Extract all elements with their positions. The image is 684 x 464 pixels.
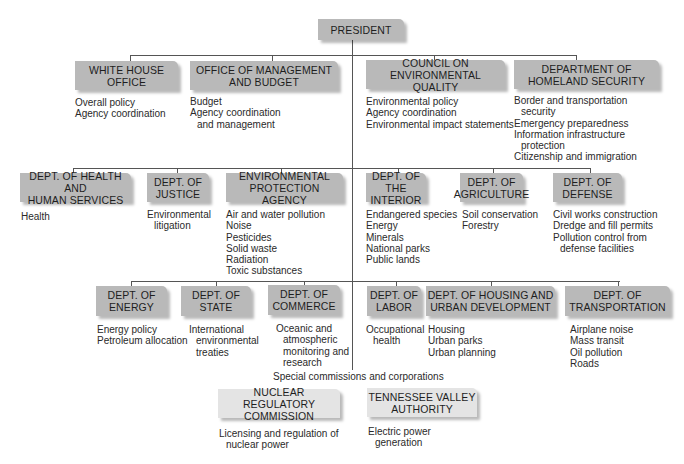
org-box-ceq: COUNCIL ON ENVIRONMENTAL QUALITY bbox=[366, 60, 505, 89]
duty-item: Occupational bbox=[366, 324, 424, 335]
org-label: DEPARTMENT OF HOMELAND SECURITY bbox=[528, 63, 645, 87]
org-box-agriculture: DEPT. OF AGRICULTURE bbox=[460, 173, 523, 202]
duty-item: Radiation bbox=[226, 254, 325, 265]
org-box-transportation: DEPT. OF TRANSPORTATION bbox=[565, 286, 670, 316]
duty-item: Urban parks bbox=[428, 335, 496, 346]
org-label: COUNCIL ON ENVIRONMENTAL QUALITY bbox=[366, 57, 505, 93]
president-box: PRESIDENT bbox=[318, 19, 404, 40]
duty-item: Pollution control from bbox=[553, 232, 657, 243]
org-duties-epa: Air and water pollution Noise Pesticides… bbox=[226, 209, 325, 277]
duty-item: Agency coordination bbox=[366, 107, 514, 118]
org-label: DEPT. OF JUSTICE bbox=[154, 176, 202, 200]
duty-item: atmospheric bbox=[276, 334, 349, 345]
duty-item: Urban planning bbox=[428, 347, 496, 358]
org-box-labor: DEPT. OF LABOR bbox=[367, 286, 421, 316]
org-duties-white-house-office: Overall policy Agency coordination bbox=[75, 97, 166, 120]
duty-item: protection bbox=[514, 140, 637, 151]
duty-item: Air and water pollution bbox=[226, 209, 325, 220]
duty-item: Agency coordination bbox=[190, 107, 281, 118]
org-label: DEPT. OF TRANSPORTATION bbox=[569, 289, 666, 313]
org-label: DEPT. OF HOUSING AND URBAN DEVELOPMENT bbox=[428, 289, 554, 313]
duty-item: nuclear power bbox=[219, 439, 339, 450]
org-duties-labor: Occupational health bbox=[366, 324, 424, 347]
duty-item: International bbox=[189, 324, 259, 335]
org-box-dhs: DEPARTMENT OF HOMELAND SECURITY bbox=[514, 60, 659, 89]
duty-item: Energy policy bbox=[97, 324, 188, 335]
org-label: OFFICE OF MANAGEMENT AND BUDGET bbox=[196, 64, 332, 88]
org-box-justice: DEPT. OF JUSTICE bbox=[147, 173, 209, 202]
org-duties-commerce: Oceanic and atmospheric monitoring and r… bbox=[276, 323, 349, 368]
org-box-nrc: NUCLEAR REGULATORY COMMISSION bbox=[218, 389, 340, 418]
org-duties-defense: Civil works construction Dredge and fill… bbox=[553, 209, 657, 254]
duty-item: Forestry bbox=[462, 220, 538, 231]
duty-item: Airplane noise bbox=[570, 324, 633, 335]
duty-item: Public lands bbox=[366, 254, 457, 265]
org-label: DEPT. OF ENERGY bbox=[107, 289, 155, 313]
duty-item: Emergency preparedness bbox=[514, 118, 637, 129]
duty-item: defense facilities bbox=[553, 243, 657, 254]
org-box-omb: OFFICE OF MANAGEMENT AND BUDGET bbox=[190, 61, 338, 90]
org-label: NUCLEAR REGULATORY COMMISSION bbox=[218, 386, 340, 422]
duty-item: Petroleum allocation bbox=[97, 335, 188, 346]
org-duties-nrc: Licensing and regulation of nuclear powe… bbox=[219, 428, 339, 451]
org-box-commerce: DEPT. OF COMMERCE bbox=[268, 285, 340, 315]
duty-item: National parks bbox=[366, 243, 457, 254]
org-duties-tva: Electric power generation bbox=[368, 426, 431, 449]
org-duties-hhs: Health bbox=[21, 211, 50, 222]
duty-item: Health bbox=[21, 211, 50, 222]
duty-item: and management bbox=[190, 119, 281, 130]
duty-item: Oil pollution bbox=[570, 347, 633, 358]
duty-item: environmental bbox=[189, 335, 259, 346]
duty-item: Solid waste bbox=[226, 243, 325, 254]
duty-item: Toxic substances bbox=[226, 265, 325, 276]
org-label: WHITE HOUSE OFFICE bbox=[89, 64, 164, 88]
duty-item: Pesticides bbox=[226, 232, 325, 243]
duty-item: security bbox=[514, 106, 637, 117]
org-box-interior: DEPT. OF THE INTERIOR bbox=[366, 173, 426, 202]
special-commissions-heading: Special commissions and corporations bbox=[273, 371, 444, 382]
org-duties-agriculture: Soil conservation Forestry bbox=[462, 209, 538, 232]
duty-item: Roads bbox=[570, 358, 633, 369]
duty-item: Endangered species bbox=[366, 209, 457, 220]
duty-item: Overall policy bbox=[75, 97, 166, 108]
duty-item: Budget bbox=[190, 96, 281, 107]
duty-item: Civil works construction bbox=[553, 209, 657, 220]
duty-item: Environmental impact statements bbox=[366, 119, 514, 130]
org-duties-energy: Energy policy Petroleum allocation bbox=[97, 324, 188, 347]
duty-item: Citizenship and immigration bbox=[514, 151, 637, 162]
duty-item: Agency coordination bbox=[75, 108, 166, 119]
duty-item: Licensing and regulation of bbox=[219, 428, 339, 439]
org-label: ENVIRONMENTAL PROTECTION AGENCY bbox=[226, 170, 343, 206]
org-duties-dhs: Border and transportation security Emerg… bbox=[514, 95, 637, 163]
org-duties-justice: Environmental litigation bbox=[147, 209, 211, 232]
trunk-line bbox=[352, 40, 353, 370]
org-duties-hud: Housing Urban parks Urban planning bbox=[428, 324, 496, 358]
duty-item: Energy bbox=[366, 220, 457, 231]
org-duties-transportation: Airplane noise Mass transit Oil pollutio… bbox=[570, 324, 633, 369]
duty-item: Minerals bbox=[366, 232, 457, 243]
org-duties-interior: Endangered species Energy Minerals Natio… bbox=[366, 209, 457, 265]
org-duties-omb: Budget Agency coordination and managemen… bbox=[190, 96, 281, 130]
duty-item: research bbox=[276, 357, 349, 368]
row3-bar bbox=[131, 281, 620, 282]
org-box-state: DEPT. OF STATE bbox=[181, 286, 251, 316]
org-box-hud: DEPT. OF HOUSING AND URBAN DEVELOPMENT bbox=[426, 286, 555, 316]
president-label: PRESIDENT bbox=[331, 24, 392, 36]
duty-item: Environmental policy bbox=[366, 96, 514, 107]
org-label: DEPT. OF COMMERCE bbox=[272, 288, 335, 312]
org-box-defense: DEPT. OF DEFENSE bbox=[553, 173, 622, 202]
org-box-epa: ENVIRONMENTAL PROTECTION AGENCY bbox=[226, 173, 343, 202]
org-label: TENNESSEE VALLEY AUTHORITY bbox=[368, 391, 475, 415]
org-label: DEPT. OF LABOR bbox=[370, 289, 418, 313]
org-box-hhs: DEPT. OF HEALTH AND HUMAN SERVICES bbox=[20, 173, 131, 202]
duty-item: Border and transportation bbox=[514, 95, 637, 106]
duty-item: Noise bbox=[226, 220, 325, 231]
duty-item: Environmental bbox=[147, 209, 211, 220]
duty-item: litigation bbox=[147, 220, 211, 231]
org-box-energy: DEPT. OF ENERGY bbox=[96, 286, 167, 316]
duty-item: Information infrastructure bbox=[514, 129, 637, 140]
duty-item: generation bbox=[368, 437, 431, 448]
duty-item: Mass transit bbox=[570, 335, 633, 346]
duty-item: Oceanic and bbox=[276, 323, 349, 334]
duty-item: Housing bbox=[428, 324, 496, 335]
